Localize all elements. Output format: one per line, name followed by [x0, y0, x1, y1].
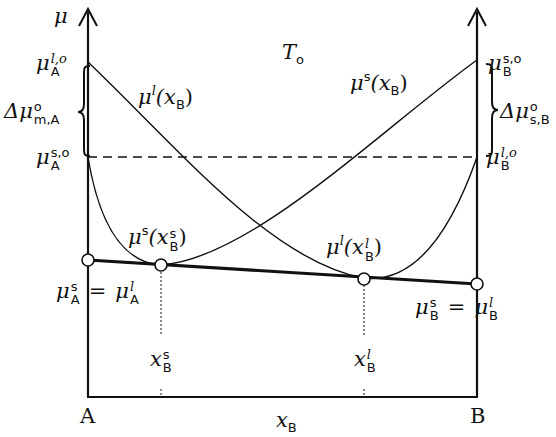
label-delta-mu-solid-B: Δμos,B — [500, 100, 550, 126]
y-axis-label: μ — [54, 6, 68, 27]
label-muA-liquid-pure: μl,oA — [36, 52, 67, 78]
label-delta-mu-melting-A: Δμom,A — [4, 100, 60, 126]
point-solid-tangent — [155, 259, 167, 271]
point-liquid-tangent — [358, 273, 370, 285]
label-solid-curve: μs(xB) — [350, 70, 408, 97]
label-muB-solid-pure: μs,oB — [488, 52, 522, 78]
title-temperature: To — [282, 42, 304, 66]
point-muB — [471, 278, 483, 290]
label-component-B: B — [470, 406, 485, 427]
label-muB-liquid-pure: μl,oB — [486, 146, 517, 172]
label-xB-solid: xsB — [150, 348, 172, 374]
label-muA-equilibrium: μsA = μlA — [56, 280, 139, 306]
label-liquid-tangent-point: μl(xlB) — [326, 234, 382, 263]
label-muA-solid-pure: μs,oA — [36, 146, 70, 172]
label-muB-equilibrium: μsB = μlB — [415, 296, 498, 322]
label-xB-liquid: xlB — [354, 348, 376, 374]
common-tangent-line — [88, 260, 477, 284]
label-solid-tangent-point: μs(xsB) — [128, 224, 187, 253]
label-liquid-curve: μl(xB) — [138, 84, 193, 111]
diagram-canvas — [0, 0, 556, 437]
label-component-A: A — [80, 406, 95, 427]
x-axis-label: xB — [276, 410, 297, 434]
point-muA — [82, 254, 94, 266]
